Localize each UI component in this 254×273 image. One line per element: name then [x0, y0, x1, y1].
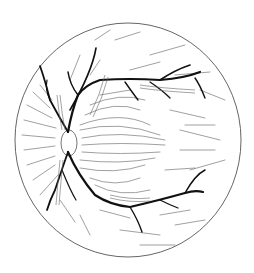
retina-illustration: Illustration of a retina showing optic d…: [0, 0, 254, 273]
retina-drawing: [0, 0, 254, 273]
fundus-boundary: [15, 23, 241, 257]
